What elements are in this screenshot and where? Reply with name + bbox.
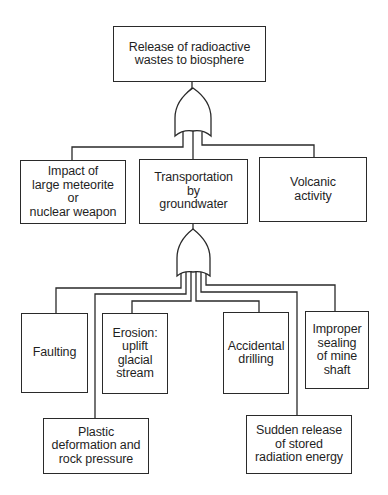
connector-gate2-faulting <box>56 273 181 313</box>
event-box-sudden: Sudden release of stored radiation energ… <box>246 415 352 474</box>
connector-gate2-erosion <box>132 271 191 313</box>
event-label-transportation: Transportation by groundwater <box>154 171 233 212</box>
or-gate-icon <box>175 88 211 136</box>
event-label-drilling: Accidental drilling <box>228 340 285 367</box>
connector-gate1-volcanic <box>202 132 314 157</box>
top-event-label: Release of radioactive wastes to biosphe… <box>129 41 250 68</box>
event-box-volcanic: Volcanic activity <box>259 157 367 222</box>
event-box-plastic: Plastic deformation and rock pressure <box>43 418 149 474</box>
event-label-plastic: Plastic deformation and rock pressure <box>52 426 141 467</box>
event-box-drilling: Accidental drilling <box>223 312 289 394</box>
top-event-box: Release of radioactive wastes to biosphe… <box>113 26 266 82</box>
event-label-sudden: Sudden release of stored radiation energ… <box>255 424 343 465</box>
connector-gate1-impact <box>72 132 183 160</box>
event-box-impact: Impact of large meteorite or nuclear wea… <box>20 160 126 224</box>
event-box-transportation: Transportation by groundwater <box>139 159 248 224</box>
event-label-faulting: Faulting <box>33 346 77 360</box>
event-box-sealing: Improper sealing of mine shaft <box>305 311 369 389</box>
event-box-faulting: Faulting <box>21 313 88 393</box>
event-box-erosion: Erosion: uplift glacial stream <box>102 313 168 394</box>
event-label-impact: Impact of large meteorite or nuclear wea… <box>30 165 117 219</box>
event-label-sealing: Improper sealing of mine shaft <box>312 323 361 377</box>
event-label-erosion: Erosion: uplift glacial stream <box>112 327 157 381</box>
or-gate-icon <box>177 229 210 276</box>
fault-tree-diagram: Release of radioactive wastes to biosphe… <box>0 0 388 495</box>
event-label-volcanic: Volcanic activity <box>290 176 336 203</box>
